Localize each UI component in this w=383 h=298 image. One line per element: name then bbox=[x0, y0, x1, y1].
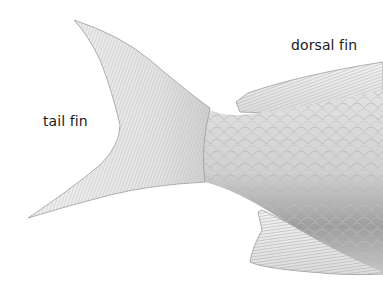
label-dorsal-fin: dorsal fin bbox=[291, 37, 357, 53]
fish-diagram: tail fin dorsal fin bbox=[0, 0, 383, 298]
label-tail-fin: tail fin bbox=[43, 113, 88, 129]
